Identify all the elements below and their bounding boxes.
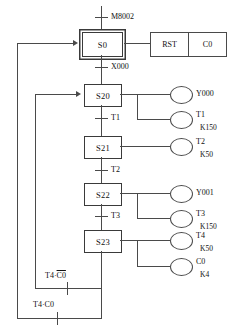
coil-preset-t2: K50 — [200, 151, 213, 159]
wire-s21-action — [120, 146, 170, 147]
coil-y001[interactable] — [170, 185, 193, 203]
transition-tick-t3 — [95, 216, 108, 217]
coil-preset-t4: K50 — [200, 245, 213, 253]
state-label-s23: S23 — [96, 237, 110, 247]
wire-s0-to-s20 — [101, 55, 102, 84]
wire-s20-action-bottom — [137, 119, 170, 120]
wire-top-stem — [101, 6, 102, 32]
transition-label-m8002: M8002 — [111, 13, 134, 21]
action-block-rst-c0[interactable]: RST C0 — [150, 32, 227, 57]
coil-label-c0: C0 — [196, 258, 205, 266]
coil-label-t2: T2 — [196, 138, 205, 146]
wire-s23-branch-vertical — [137, 240, 138, 267]
coil-preset-c0: K4 — [200, 271, 209, 279]
state-label-s20: S20 — [96, 91, 110, 101]
coil-label-t3: T3 — [196, 210, 205, 218]
transition-label-x000: X000 — [111, 63, 129, 71]
coil-t2[interactable] — [170, 138, 193, 156]
coil-t1[interactable] — [170, 111, 193, 129]
state-box-s23[interactable]: S23 — [84, 230, 122, 253]
coil-t4[interactable] — [170, 232, 193, 250]
state-label-s22: S22 — [96, 190, 110, 200]
transition-tick-t1 — [95, 118, 108, 119]
wire-s22-branch-vertical — [137, 193, 138, 219]
coil-label-y000: Y000 — [196, 90, 214, 98]
wire-s20-action-top — [120, 94, 170, 95]
coil-label-t1: T1 — [196, 111, 205, 119]
transition-tick-inner-feedback — [67, 282, 68, 295]
transition-tick-t2 — [95, 170, 108, 171]
transition-label-outer-feedback: T4·C0 — [33, 301, 54, 309]
action-operand: C0 — [188, 33, 226, 56]
wire-outer-feedback-bottom — [17, 318, 102, 319]
state-box-s22[interactable]: S22 — [84, 183, 122, 206]
wire-inner-feedback-riser — [35, 94, 36, 289]
coil-preset-t3: K150 — [200, 223, 217, 231]
coil-c0[interactable] — [170, 258, 193, 276]
state-label-s21: S21 — [96, 143, 110, 153]
inner-feedback-overlined: C0 — [57, 271, 66, 280]
wire-s23-action-bottom — [137, 266, 170, 267]
transition-tick-m8002 — [95, 17, 108, 18]
state-label-s0: S0 — [98, 40, 107, 50]
transition-tick-x000 — [95, 67, 108, 68]
wire-outer-feedback-to-s0 — [17, 43, 75, 44]
wire-s20-branch-vertical — [137, 94, 138, 120]
state-box-s20[interactable]: S20 — [84, 84, 122, 107]
wire-s22-action-top — [120, 193, 170, 194]
wire-s23-down-stem — [101, 251, 102, 319]
transition-label-t2: T2 — [111, 166, 120, 174]
wire-s0-to-action — [124, 43, 150, 44]
wire-s20-to-s21 — [101, 105, 102, 136]
wire-outer-feedback-riser — [17, 43, 18, 319]
wire-s22-action-bottom — [137, 218, 170, 219]
wire-s23-action-top — [120, 240, 170, 241]
state-box-s21[interactable]: S21 — [84, 136, 122, 159]
coil-y000[interactable] — [170, 86, 193, 104]
arrow-inner-feedback-s20 — [76, 91, 81, 97]
transition-label-inner-feedback: T4·C0 — [45, 272, 66, 280]
coil-preset-t1: K150 — [200, 124, 217, 132]
transition-tick-outer-feedback — [57, 312, 58, 325]
coil-t3[interactable] — [170, 210, 193, 228]
coil-label-t4: T4 — [196, 232, 205, 240]
action-instruction: RST — [151, 33, 188, 56]
transition-label-t3: T3 — [111, 212, 120, 220]
state-box-s0[interactable]: S0 — [82, 32, 123, 57]
inner-feedback-prefix: T4· — [45, 271, 57, 280]
sfc-diagram: M8002 S0 RST C0 X000 S20 Y000 T1 K150 T1… — [0, 0, 236, 333]
coil-label-y001: Y001 — [196, 189, 214, 197]
arrow-outer-feedback-s0 — [73, 40, 78, 46]
wire-inner-feedback-bottom — [35, 288, 102, 289]
transition-label-t1: T1 — [111, 114, 120, 122]
wire-inner-feedback-to-s20 — [35, 94, 78, 95]
